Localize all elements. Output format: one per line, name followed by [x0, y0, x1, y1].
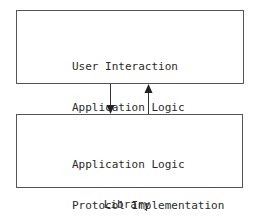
bottom-box-line-1: Application Logic: [72, 158, 224, 172]
up-arrow-icon: [145, 84, 153, 114]
library-caption: Library: [0, 198, 254, 211]
down-arrow-icon: [107, 84, 115, 114]
library-layer-box: Application Logic Protocol Implementatio…: [16, 114, 243, 188]
